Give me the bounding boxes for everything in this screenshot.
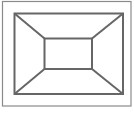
diagonal-top-right <box>92 14 123 39</box>
outer-border <box>3 2 132 107</box>
diagonal-bottom-left <box>15 69 45 94</box>
inner-rectangle <box>45 39 93 70</box>
diagonal-bottom-right <box>92 69 123 94</box>
perspective-frame-diagram <box>0 0 134 113</box>
diagonal-top-left <box>15 14 45 39</box>
